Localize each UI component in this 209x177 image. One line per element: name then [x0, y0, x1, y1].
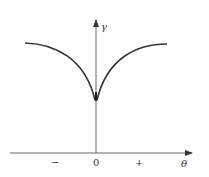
- tick-label-negative: −: [51, 157, 59, 168]
- y-axis-label: γ: [101, 21, 107, 32]
- gamma-theta-diagram: γ θ − 0 +: [0, 0, 209, 177]
- x-axis-label: θ: [181, 158, 187, 169]
- curve-left-branch: [25, 43, 95, 100]
- curve-right-branch: [97, 44, 167, 100]
- tick-label-positive: +: [135, 157, 143, 168]
- tick-label-zero: 0: [93, 157, 99, 168]
